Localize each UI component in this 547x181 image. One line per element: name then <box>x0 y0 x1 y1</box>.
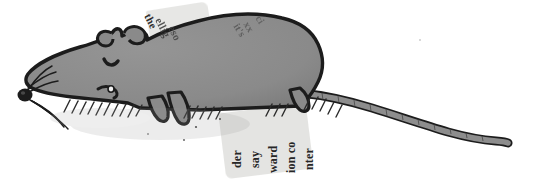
ground-smudge <box>50 108 250 140</box>
tail <box>300 93 508 143</box>
left-ear <box>97 31 113 46</box>
rat-drawing <box>0 0 547 181</box>
illustration-canvas: the ellig eso it's xx ci der say ward io… <box>0 0 547 181</box>
